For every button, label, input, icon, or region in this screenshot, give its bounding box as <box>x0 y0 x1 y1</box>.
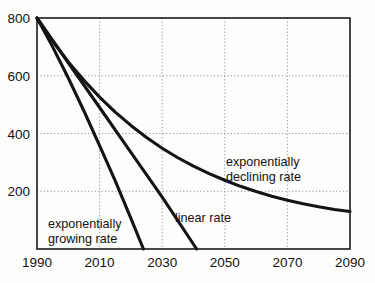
exponentially-declining-rate-label: exponentiallydeclining rate <box>226 155 301 184</box>
x-tick-2070: 2070 <box>272 255 302 270</box>
y-tick-400: 400 <box>7 127 30 142</box>
y-tick-800: 800 <box>7 11 30 26</box>
x-tick-2050: 2050 <box>210 255 240 270</box>
exponentially-declining-rate-label-line1: exponentially <box>226 155 300 169</box>
chart-container: 200400600800 199020102030205020702090 ex… <box>0 0 375 283</box>
exponentially-declining-rate-label-line2: declining rate <box>226 170 301 184</box>
y-tick-200: 200 <box>7 184 30 199</box>
x-tick-1990: 1990 <box>22 255 52 270</box>
population-projection-line-chart: 200400600800 199020102030205020702090 ex… <box>0 0 375 283</box>
x-tick-2090: 2090 <box>335 255 365 270</box>
exponentially-growing-rate-label: exponentiallygrowing rate <box>48 217 122 246</box>
x-tick-2010: 2010 <box>85 255 115 270</box>
exponentially-growing-rate-label-line1: exponentially <box>48 217 122 231</box>
y-tick-600: 600 <box>7 69 30 84</box>
exponentially-growing-rate-label-line2: growing rate <box>48 232 117 246</box>
linear-rate-label-line1: linear rate <box>175 211 231 225</box>
linear-rate-label: linear rate <box>175 211 231 225</box>
x-tick-2030: 2030 <box>147 255 177 270</box>
